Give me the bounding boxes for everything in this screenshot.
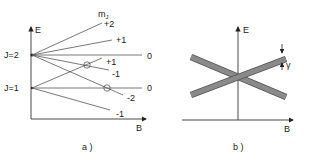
mj-label-j2--1: -1 [112, 69, 120, 79]
level-label-j1: J=1 [4, 83, 19, 93]
mj-label-j1-+1: +1 [106, 57, 116, 67]
caption-a: a ) [82, 142, 93, 152]
line-j2-m-1 [32, 55, 109, 70]
line-j1-m+1 [32, 58, 102, 88]
line-j2-m+2 [32, 23, 102, 55]
mj-label-j1--1: -1 [116, 109, 124, 119]
level-crossing-figure: E B mJ J=2 J=1 +2 +1 0 -1 -2 +1 0 -1 a )… [0, 0, 309, 163]
e-axis-label-a: E [35, 25, 41, 35]
line-j1-m-1 [32, 88, 110, 110]
caption-b: b ) [233, 142, 244, 152]
mj-label-j2-+1: +1 [116, 35, 126, 45]
line-j2-m+1 [32, 40, 112, 55]
e-axis-label-b: E [243, 25, 249, 35]
panel-b: E B γ b ) [182, 25, 293, 152]
mj-label-j2-0: 0 [147, 51, 152, 61]
panel-a: E B mJ J=2 J=1 +2 +1 0 -1 -2 +1 0 -1 a ) [4, 9, 152, 152]
b-axis-label-b: B [284, 124, 290, 134]
mj-label-j1-0: 0 [147, 83, 152, 93]
gamma-label: γ [286, 60, 291, 70]
mj-label-j2--2: -2 [127, 93, 135, 103]
b-axis-label-a: B [136, 123, 142, 133]
level-label-j2: J=2 [4, 50, 19, 60]
mj-label-j2-+2: +2 [104, 19, 114, 29]
